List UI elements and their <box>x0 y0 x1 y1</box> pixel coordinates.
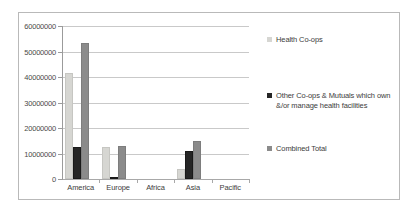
x-tick <box>249 179 250 183</box>
x-axis-label-europe: Europe <box>99 183 136 192</box>
y-axis-label: 50000000 <box>24 47 56 56</box>
y-tick-20000000 <box>58 128 63 129</box>
plot-area: 0100000002000000030000000400000005000000… <box>62 26 249 179</box>
legend-label: Combined Total <box>276 144 327 154</box>
y-axis-label: 0 <box>52 175 56 184</box>
bar-group <box>65 26 89 179</box>
x-axis-label-america: America <box>62 183 99 192</box>
bar <box>102 147 110 179</box>
y-tick-40000000 <box>58 77 63 78</box>
chart-container: 0100000002000000030000000400000005000000… <box>18 12 400 200</box>
bar <box>177 169 185 179</box>
y-tick-60000000 <box>58 26 63 27</box>
y-axis-label: 20000000 <box>24 124 56 133</box>
y-tick-0 <box>58 179 63 180</box>
x-axis-label-asia: Asia <box>174 183 211 192</box>
y-tick-10000000 <box>58 154 63 155</box>
legend-swatch-icon <box>267 146 272 151</box>
y-tick-50000000 <box>58 52 63 53</box>
y-axis-label: 30000000 <box>24 98 56 107</box>
bar <box>65 73 73 179</box>
legend-swatch-icon <box>267 37 272 42</box>
bar <box>118 146 126 179</box>
bar-group <box>177 26 201 179</box>
bar-group <box>140 26 164 179</box>
legend-entry[interactable]: Other Co-ops & Mutuals which own &/or ma… <box>267 91 395 110</box>
bar-group <box>214 26 238 179</box>
legend-entry[interactable]: Health Co-ops <box>267 35 323 45</box>
bar <box>73 147 81 179</box>
y-axis-label: 60000000 <box>24 22 56 31</box>
legend-swatch-icon <box>267 93 272 98</box>
legend-label: Other Co-ops & Mutuals which own &/or ma… <box>276 91 395 110</box>
gridline-0 <box>62 179 249 180</box>
x-axis-label-africa: Africa <box>137 183 174 192</box>
legend-label: Health Co-ops <box>276 35 323 45</box>
bar <box>193 141 201 179</box>
bar <box>185 151 193 179</box>
x-axis-label-pacific: Pacific <box>212 183 249 192</box>
legend-entry[interactable]: Combined Total <box>267 144 327 154</box>
bar-group <box>102 26 126 179</box>
bar <box>81 43 89 179</box>
y-axis-label: 10000000 <box>24 149 56 158</box>
bar <box>110 177 118 179</box>
y-tick-30000000 <box>58 103 63 104</box>
y-axis-label: 40000000 <box>24 73 56 82</box>
